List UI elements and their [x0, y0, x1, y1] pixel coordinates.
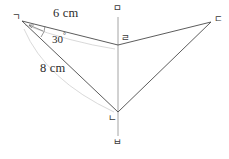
angle-value: 30 [52, 33, 63, 45]
dimension-label-left: 8 cm [40, 61, 65, 76]
dimension-label-top: 6 cm [53, 6, 78, 21]
vertex-label-b: ㅂ [113, 137, 122, 147]
geometry-figure: 6 cm 8 cm 30° ㄱ ㄷ ㄴ ㄹ ㅁ ㅂ [0, 0, 229, 159]
angle-label-30: 30° [52, 31, 66, 45]
segment-g-n [22, 21, 118, 112]
vertex-label-d: ㄷ [214, 14, 223, 24]
vertex-label-m: ㅁ [113, 3, 122, 13]
segment-n-d [118, 22, 211, 112]
degree-symbol: ° [63, 31, 66, 40]
vertex-label-g: ㄱ [12, 12, 21, 22]
vertex-label-r: ㄹ [121, 33, 130, 43]
vertex-label-n: ㄴ [108, 113, 117, 123]
segment-r-d [118, 22, 211, 45]
measure-arc-8cm [24, 29, 114, 112]
segment-g-r [22, 21, 118, 45]
